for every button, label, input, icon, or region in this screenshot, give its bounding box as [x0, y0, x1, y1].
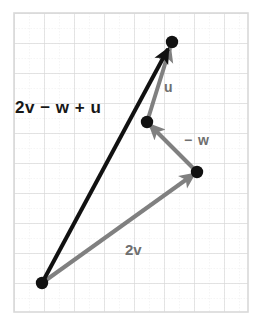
point-origin: [36, 277, 48, 289]
vector-diagram-canvas: [0, 0, 257, 331]
label-vector-negative-w: − w: [184, 133, 210, 147]
label-vector-u: u: [164, 80, 173, 94]
label-resultant-vector: 2v − w + u: [15, 99, 101, 116]
vector-diagram-figure: 2v − w + u u − w 2v: [0, 0, 257, 331]
point-tip-2v-minus-w: [141, 116, 153, 128]
point-tip-resultant: [166, 36, 178, 48]
point-tip-2v: [191, 166, 203, 178]
label-vector-2v: 2v: [125, 242, 142, 257]
